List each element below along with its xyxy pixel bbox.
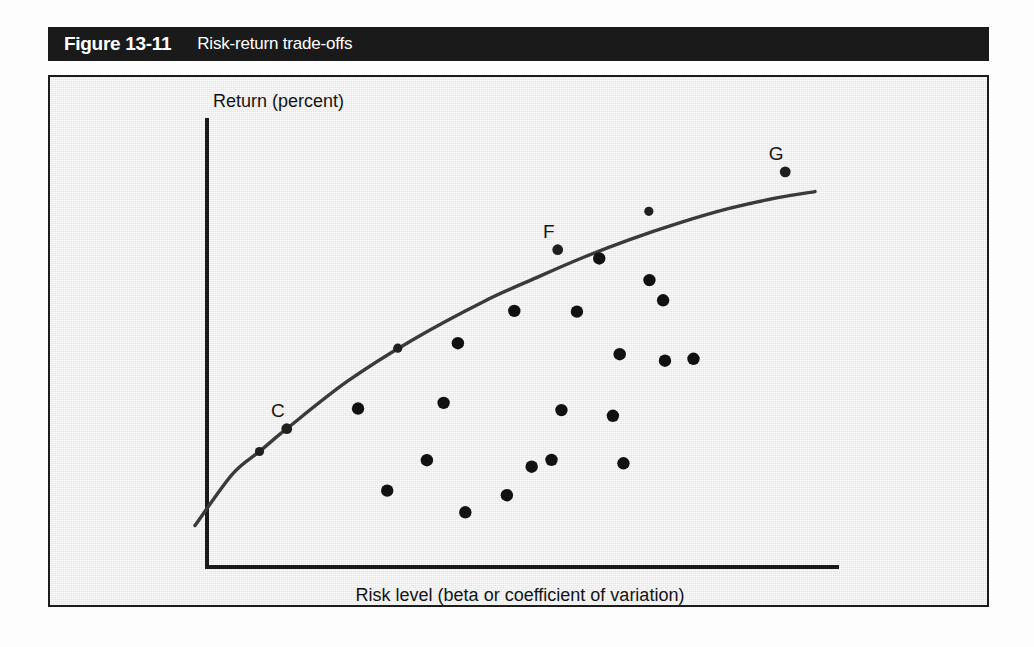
scatter-point — [452, 337, 464, 349]
frontier-point — [255, 447, 264, 456]
scatter-point — [421, 454, 433, 466]
scatter-point — [687, 353, 699, 365]
scatter-point — [607, 410, 619, 422]
scatter-point — [659, 354, 671, 366]
figure-caption-bar: Figure 13-11 Risk-return trade-offs — [48, 27, 989, 61]
frontier-point-c — [281, 423, 292, 434]
scatter-point-group — [352, 252, 700, 518]
scatter-point — [501, 489, 513, 501]
frontier-point — [393, 344, 402, 353]
x-axis-label: Risk level (beta or coefficient of varia… — [356, 585, 685, 605]
risk-return-scatter-chart: CFG Return (percent) Risk level (beta or… — [50, 77, 987, 605]
figure-number: Figure 13-11 — [64, 33, 171, 55]
efficient-frontier-curve — [195, 192, 815, 526]
frontier-node-group — [255, 166, 791, 456]
frontier-label-g: G — [769, 143, 784, 164]
frontier-point-f — [552, 244, 563, 255]
scatter-point — [555, 404, 567, 416]
scatter-point — [525, 461, 537, 473]
scatter-point — [545, 454, 557, 466]
y-axis-label: Return (percent) — [213, 91, 344, 111]
frontier-label-f: F — [543, 221, 555, 242]
frontier-point-g — [780, 166, 791, 177]
figure-panel: CFG Return (percent) Risk level (beta or… — [48, 75, 989, 607]
scatter-point — [352, 402, 364, 414]
frontier-point — [644, 207, 653, 216]
scatter-point — [437, 397, 449, 409]
scatter-point — [617, 457, 629, 469]
scatter-point — [381, 484, 393, 496]
scatter-point — [593, 252, 605, 264]
frontier-label-c: C — [271, 400, 285, 421]
scatter-point — [508, 305, 520, 317]
scatter-point — [614, 348, 626, 360]
scatter-point — [571, 305, 583, 317]
page-root: Figure 13-11 Risk-return trade-offs CFG … — [0, 0, 1034, 647]
scatter-point — [657, 294, 669, 306]
figure-title: Risk-return trade-offs — [197, 34, 352, 54]
scatter-point — [459, 506, 471, 518]
scatter-point — [643, 274, 655, 286]
